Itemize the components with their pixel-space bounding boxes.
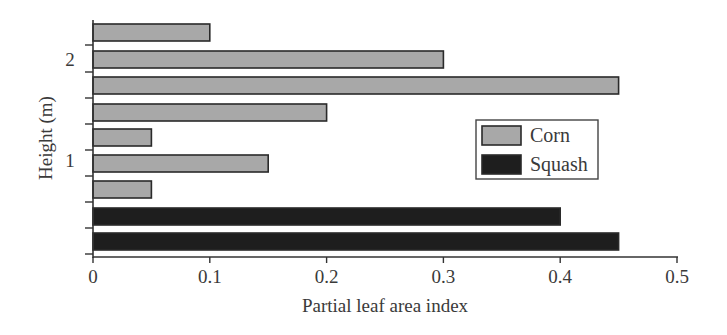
y-axis-title: Height (m) (35, 96, 57, 180)
bar-squash (93, 233, 619, 250)
legend-label-squash: Squash (530, 153, 588, 176)
bar-squash (93, 208, 560, 225)
legend-swatch-squash (482, 155, 521, 174)
x-tick-label: 0 (88, 266, 98, 287)
legend-swatch-corn (482, 126, 521, 145)
x-axis-title: Partial leaf area index (302, 295, 469, 316)
x-tick-label: 0.4 (548, 266, 572, 287)
x-tick-label: 0.3 (432, 266, 456, 287)
x-tick-label: 0.2 (315, 266, 339, 287)
legend-label-corn: Corn (530, 124, 570, 146)
y-tick-label-2: 2 (65, 49, 75, 70)
x-tick-label: 0.1 (198, 266, 222, 287)
bar-chart: 00.10.20.30.40.5 2 1 Height (m) Partial … (0, 0, 727, 335)
x-axis-ticks: 00.10.20.30.40.5 (88, 257, 689, 287)
bar-corn (93, 77, 619, 94)
bar-corn (93, 181, 151, 198)
y-axis-ticks (85, 45, 93, 254)
y-tick-label-1: 1 (65, 150, 75, 171)
x-tick-label: 0.5 (665, 266, 689, 287)
bar-corn (93, 104, 327, 121)
bar-corn (93, 24, 210, 41)
bar-corn (93, 51, 443, 68)
bar-corn (93, 129, 151, 146)
legend: Corn Squash (476, 120, 598, 179)
bar-corn (93, 155, 268, 172)
